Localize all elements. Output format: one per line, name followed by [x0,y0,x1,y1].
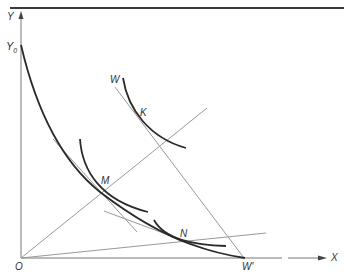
x-axis-label: X [331,253,338,263]
x-axis-arrow-icon [318,256,327,261]
indifference-curve-m [80,139,148,212]
y-axis-arrow-icon [19,11,24,19]
point-n-label: N [180,229,187,239]
y0-label: Y0 [6,41,17,54]
point-k-label: K [140,108,147,118]
diagram-canvas [0,0,344,275]
point-w-label: W [110,75,119,85]
y-axis-label: Y [7,12,14,22]
origin-label: O [15,262,23,272]
main-curve [21,45,245,258]
point-w-prime-label: W′ [242,262,253,272]
y0-label-subscript: 0 [13,47,17,54]
indifference-curve-k [123,78,186,148]
point-m-label: M [101,176,109,186]
